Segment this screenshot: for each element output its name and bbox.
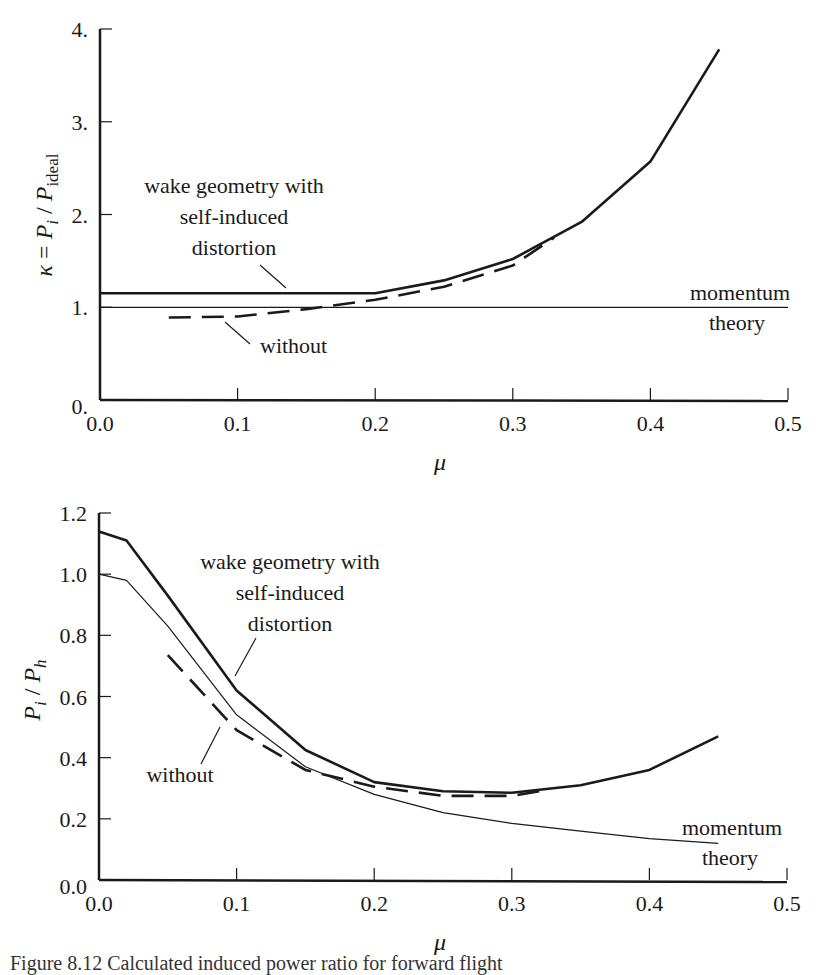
annotation-line: theory [702,845,758,870]
leader-line [260,265,286,288]
x-tick-label: 0.0 [86,411,114,436]
y-tick-label: 1.2 [60,501,88,526]
leader-line [201,727,220,764]
figure-caption: Figure 8.12 Calculated induced power rat… [10,952,503,975]
x-tick-label: 0.4 [636,891,664,916]
y-tick-label: 4. [72,17,89,42]
x-tick-label: 0.1 [224,411,252,436]
y-tick-label: 3. [72,110,89,135]
x-tick-label: 0.3 [498,891,526,916]
y-tick-label: 0.8 [60,623,88,648]
top-chart: 0.00.10.20.30.40.50.1.2.3.4. μ κ = Pi / … [31,17,802,475]
y-tick-label: 2. [72,203,89,228]
y-tick-label: 0.4 [60,746,88,771]
bottom-series [99,531,718,843]
y-tick-label: 1. [72,295,89,320]
annotation-line: wake geometry with [200,549,380,574]
annotation-line: momentum [682,815,782,840]
y-tick-label: 0.0 [60,874,88,899]
annotation-line: wake geometry with [144,173,324,198]
bottom-annotation-momentum: momentum theory [682,815,782,870]
x-tick-label: 0.0 [85,891,113,916]
bottom-ticks: 0.00.10.20.30.40.50.00.20.40.60.81.01.2 [60,501,801,916]
x-tick-label: 0.4 [637,411,665,436]
top-x-axis-title: μ [433,449,446,475]
leader-line [225,322,250,344]
annotation-line: momentum [690,280,790,305]
bottom-annotation-without: without [146,727,220,787]
top-annotation-without: without [225,322,327,358]
annotation-line: without [146,762,213,787]
svg-text:κ = Pi / Pideal: κ = Pi / Pideal [31,153,62,276]
bottom-chart: 0.00.10.20.30.40.50.00.20.40.60.81.01.2 … [19,501,801,955]
x-tick-label: 0.1 [223,891,251,916]
x-tick-label: 0.5 [774,411,802,436]
series-line-solid-thick [99,531,718,792]
top-annotation-wake: wake geometry with self-induced distorti… [144,173,324,288]
y-tick-label: 1.0 [60,562,88,587]
annotation-line: distortion [248,611,332,636]
annotation-line: distortion [192,235,276,260]
svg-text:Pi / Ph: Pi / Ph [19,659,50,721]
top-x-axis [100,400,788,401]
x-tick-label: 0.3 [499,411,527,436]
y-tick-label: 0.2 [60,807,88,832]
x-tick-label: 0.5 [773,891,801,916]
annotation-line: without [260,333,327,358]
series-line-dashed [168,655,540,796]
bottom-annotation-wake: wake geometry with self-induced distorti… [200,549,380,676]
leader-line [235,638,256,676]
bottom-x-axis [99,880,787,882]
y-tick-label: 0.6 [60,685,88,710]
top-y-axis-title: κ = Pi / Pideal [31,153,62,276]
annotation-line: self-induced [236,580,345,605]
annotation-line: self-induced [180,204,289,229]
x-tick-label: 0.2 [361,411,389,436]
bottom-y-axis-title: Pi / Ph [19,659,50,721]
annotation-line: theory [709,310,765,335]
x-tick-label: 0.2 [360,891,388,916]
series-line-solid-thin [99,574,718,843]
y-tick-label: 0. [72,394,89,419]
